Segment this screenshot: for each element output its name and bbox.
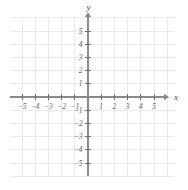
y-axis-tick-label: 1 — [79, 79, 83, 88]
y-axis-tick-label: −3 — [74, 132, 83, 141]
y-axis-label: y — [85, 2, 91, 12]
x-axis-tick-label: 4 — [139, 102, 143, 111]
x-axis-arrowhead — [164, 94, 169, 100]
coordinate-plane-svg: −5−4−3−2−112345 54321−1−2−3−4−5 x y — [0, 0, 188, 190]
x-axis-tick-label: 3 — [125, 102, 130, 111]
x-axis-tick-label: −2 — [57, 102, 66, 111]
x-axis-tick-label: 5 — [152, 102, 156, 111]
x-axis-tick-label: −5 — [18, 102, 27, 111]
y-axis-tick-label: −2 — [74, 119, 83, 128]
x-axis-tick-label: −4 — [31, 102, 40, 111]
x-axis-tick-label: 2 — [113, 102, 117, 111]
axis-lines — [10, 12, 169, 176]
x-axis-tick-labels: −5−4−3−2−112345 — [18, 102, 156, 111]
y-axis-tick-label: 2 — [79, 66, 83, 75]
y-axis-tick-label: 4 — [79, 40, 83, 49]
x-axis-tick-label: −3 — [44, 102, 53, 111]
y-axis-tick-label: −1 — [74, 106, 83, 115]
y-axis-tick-label: 5 — [79, 27, 83, 36]
y-axis-tick-label: −5 — [74, 159, 83, 168]
y-axis-tick-label: 3 — [78, 53, 83, 62]
x-axis-label: x — [173, 92, 179, 102]
coordinate-plane-figure: −5−4−3−2−112345 54321−1−2−3−4−5 x y — [0, 0, 188, 190]
x-axis-tick-label: 1 — [99, 102, 103, 111]
y-axis-arrowhead — [85, 12, 91, 17]
y-axis-tick-label: −4 — [74, 145, 83, 154]
